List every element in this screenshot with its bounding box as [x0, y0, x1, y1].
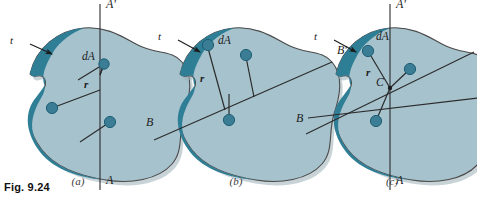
element-dA-c: [362, 45, 373, 56]
axis-left-label-c: B: [296, 111, 304, 125]
element-label-a: dA: [82, 50, 96, 62]
center-label-c: C: [376, 76, 384, 88]
axis-top-label-c: A': [395, 0, 406, 11]
figure-number-caption: Fig. 9.24: [4, 181, 50, 193]
element-dot-c-2: [404, 63, 415, 74]
figure-container: t A' A dA r (a): [0, 0, 477, 199]
element-dA-b: [202, 39, 213, 50]
panel-caption-c: (c): [386, 175, 399, 188]
element-label-b: dA: [218, 34, 232, 46]
centroid-point-c: [388, 86, 392, 90]
element-dot-c-3: [370, 115, 381, 126]
element-label-c: dA: [376, 30, 390, 42]
radius-label-b: r: [200, 72, 205, 84]
panel-a: t A' A dA r: [10, 0, 193, 190]
axis-bottom-label-a: A: [105, 173, 114, 187]
axis-left-label-b: B: [146, 115, 154, 129]
thickness-label-b: t: [158, 30, 162, 42]
element-dA-a: [99, 59, 109, 69]
element-dot-a-2: [46, 102, 57, 113]
thickness-label-c: t: [314, 30, 318, 42]
axis-top-label-a: A': [105, 0, 116, 11]
panel-caption-b: (b): [230, 175, 243, 188]
radius-label-a: r: [84, 78, 89, 90]
element-dot-a-3: [104, 116, 115, 127]
figure-svg: t A' A dA r (a): [0, 0, 477, 199]
element-dot-b-3: [223, 114, 234, 125]
radius-label-c: r: [366, 66, 371, 78]
thickness-label-a: t: [10, 34, 14, 46]
element-dot-b-2: [240, 49, 251, 60]
panel-caption-a: (a): [72, 175, 85, 188]
